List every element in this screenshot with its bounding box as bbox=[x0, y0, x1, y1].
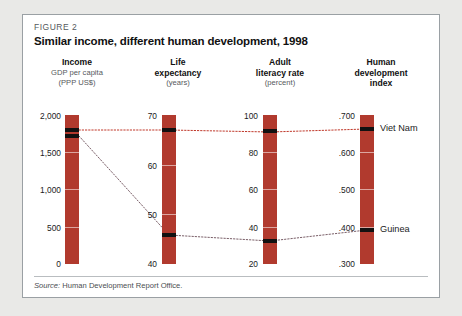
tick-literacy-40: 40 bbox=[220, 223, 258, 233]
value-marker-hdi-guinea bbox=[360, 228, 374, 232]
series-label-vietnam: Viet Nam bbox=[380, 123, 418, 133]
tick-life-50: 50 bbox=[119, 210, 157, 220]
value-marker-income-vietnam bbox=[65, 128, 79, 132]
tick-income-0: 0 bbox=[23, 259, 61, 269]
value-marker-life-vietnam bbox=[162, 128, 176, 132]
tick-hdi-300: .300 bbox=[317, 259, 355, 269]
tick-literacy-100: 100 bbox=[220, 111, 258, 121]
tick-hdi-700: .700 bbox=[317, 111, 355, 121]
tick-income-1500: 1,500 bbox=[23, 148, 61, 158]
value-marker-literacy-guinea bbox=[263, 239, 277, 243]
connector-line-vietnam bbox=[79, 129, 367, 132]
tick-life-60: 60 bbox=[119, 161, 157, 171]
figure-panel: FIGURE 2 Similar income, different human… bbox=[22, 14, 440, 298]
tick-life-40: 40 bbox=[119, 259, 157, 269]
tick-literacy-60: 60 bbox=[220, 185, 258, 195]
series-label-guinea: Guinea bbox=[380, 224, 410, 234]
value-marker-hdi-vietnam bbox=[360, 127, 374, 131]
tick-income-500: 500 bbox=[23, 223, 61, 233]
source-text: Human Development Report Office. bbox=[62, 281, 182, 290]
tick-income-2000: 2,000 bbox=[23, 111, 61, 121]
tick-literacy-80: 80 bbox=[220, 148, 258, 158]
tick-literacy-20: 20 bbox=[220, 259, 258, 269]
axis-bar-life-expectancy bbox=[162, 115, 176, 264]
tick-hdi-500: .500 bbox=[317, 185, 355, 195]
value-marker-income-guinea bbox=[65, 134, 79, 138]
tick-hdi-600: .600 bbox=[317, 148, 355, 158]
tick-hdi-400: .400 bbox=[317, 223, 355, 233]
tick-life-70: 70 bbox=[119, 111, 157, 121]
tick-income-1000: 1,000 bbox=[23, 185, 61, 195]
axis-bar-hdi bbox=[360, 115, 374, 264]
footer-divider bbox=[34, 276, 428, 277]
value-marker-literacy-vietnam bbox=[263, 129, 277, 133]
value-marker-life-guinea bbox=[162, 233, 176, 237]
source-prefix: Source: bbox=[34, 281, 60, 290]
source-note: Source: Human Development Report Office. bbox=[34, 281, 182, 290]
